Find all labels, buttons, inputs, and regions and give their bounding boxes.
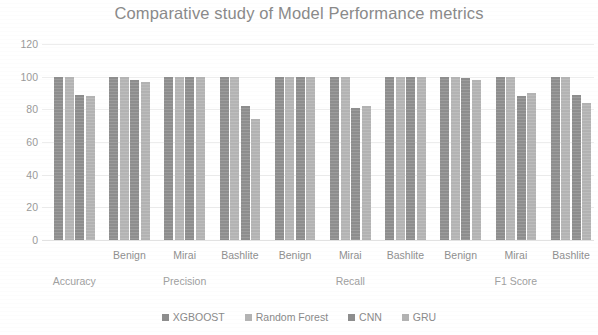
bar [385, 77, 394, 240]
bar [572, 95, 581, 240]
bar [440, 77, 449, 240]
bar [351, 108, 360, 240]
x-group-label: F1 Score [495, 276, 538, 287]
bar [164, 77, 173, 240]
bar [296, 77, 305, 240]
y-tick-label: 100 [4, 71, 38, 82]
bar [396, 77, 405, 240]
bar [306, 77, 315, 240]
x-sub-label: Benign [444, 250, 477, 261]
bar [472, 80, 481, 240]
y-tick-label: 40 [4, 169, 38, 180]
x-sub-label: Mirai [339, 250, 362, 261]
legend-label: XGBOOST [173, 312, 225, 323]
legend-label: Random Forest [256, 312, 328, 323]
chart-title: Comparative study of Model Performance m… [0, 4, 598, 23]
bar [285, 77, 294, 240]
legend-swatch-icon [348, 314, 355, 321]
bar [175, 77, 184, 240]
x-axis-sub-labels: BenignMiraiBashliteBenignMiraiBashliteBe… [42, 250, 594, 266]
x-sub-label: Bashlite [221, 250, 258, 261]
bar [185, 77, 194, 240]
bars-layer [42, 44, 594, 240]
bar [196, 77, 205, 240]
x-group-label: Recall [336, 276, 365, 287]
legend-label: CNN [359, 312, 382, 323]
bar [109, 77, 118, 240]
legend-item[interactable]: Random Forest [245, 312, 328, 323]
bar [141, 82, 150, 240]
legend-swatch-icon [245, 314, 252, 321]
bar-chart: Comparative study of Model Performance m… [0, 0, 598, 335]
x-sub-label: Bashlite [387, 250, 424, 261]
legend-item[interactable]: CNN [348, 312, 382, 323]
bar [417, 77, 426, 240]
legend-swatch-icon [162, 314, 169, 321]
y-tick-label: 0 [4, 235, 38, 246]
x-axis-group-labels: AccuracyPrecisionRecallF1 Score [42, 276, 594, 292]
bar [75, 95, 84, 240]
bar [251, 119, 260, 240]
bar [65, 77, 74, 240]
bar [130, 80, 139, 240]
x-group-label: Precision [163, 276, 206, 287]
bar [220, 77, 229, 240]
bar [341, 77, 350, 240]
bar [451, 77, 460, 240]
legend-label: GRU [413, 312, 436, 323]
bar [86, 96, 95, 240]
legend-swatch-icon [402, 314, 409, 321]
bar [230, 77, 239, 240]
x-sub-label: Mirai [504, 250, 527, 261]
y-tick-label: 80 [4, 104, 38, 115]
bar [561, 77, 570, 240]
legend-item[interactable]: XGBOOST [162, 312, 225, 323]
x-sub-label: Bashlite [552, 250, 589, 261]
bar [54, 77, 63, 240]
bar [506, 77, 515, 240]
bar [551, 77, 560, 240]
bar [527, 93, 536, 240]
y-axis: 020406080100120 [0, 44, 38, 240]
bar [496, 77, 505, 240]
bar [517, 96, 526, 240]
y-tick-label: 60 [4, 137, 38, 148]
x-sub-label: Benign [279, 250, 312, 261]
bar [120, 77, 129, 240]
bar [461, 78, 470, 240]
bar [362, 106, 371, 240]
bar [330, 77, 339, 240]
y-tick-label: 20 [4, 202, 38, 213]
gridline-0 [42, 240, 594, 241]
x-sub-label: Mirai [173, 250, 196, 261]
bar [275, 77, 284, 240]
x-group-label: Accuracy [53, 276, 96, 287]
y-tick-label: 120 [4, 39, 38, 50]
x-sub-label: Benign [113, 250, 146, 261]
bar [406, 77, 415, 240]
bar [582, 103, 591, 240]
bar [241, 106, 250, 240]
chart-legend: XGBOOSTRandom ForestCNNGRU [0, 312, 598, 323]
legend-item[interactable]: GRU [402, 312, 436, 323]
